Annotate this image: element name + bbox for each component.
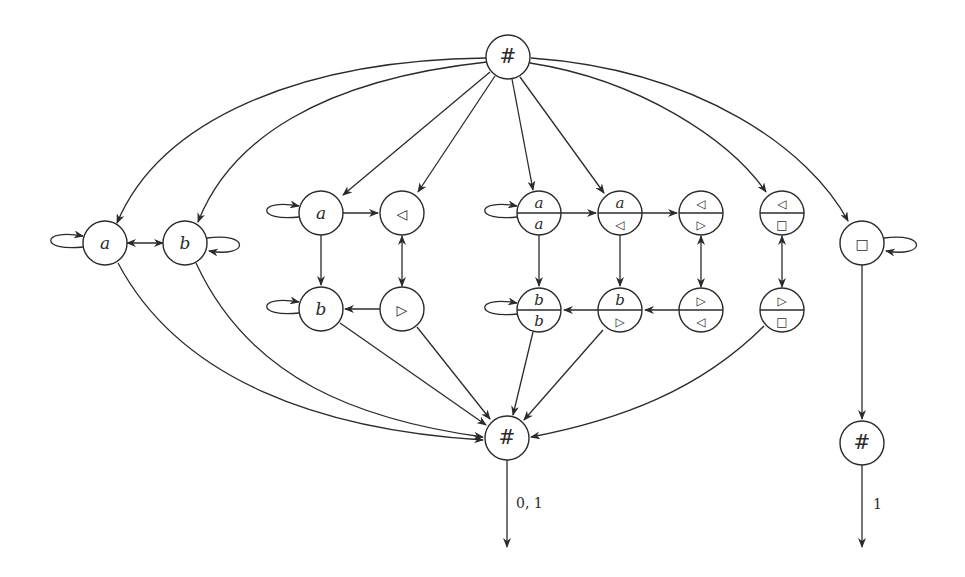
state-node-right_hash: #: [840, 421, 884, 465]
transition-arrow: [531, 326, 764, 437]
state-node-s_ltrt: ◁▷: [679, 191, 723, 235]
edge-labels-layer: 0, 11: [516, 495, 882, 512]
self-loop-arrow: [485, 301, 517, 314]
state-node-s_ltsq: ◁□: [760, 191, 804, 235]
state-label-bottom: a: [535, 215, 544, 233]
self-loop-arrow: [267, 300, 299, 313]
state-node-g_lt: ◁: [380, 191, 424, 235]
output-label: 0, 1: [516, 495, 543, 511]
state-label: #: [500, 44, 517, 68]
state-label-top: ▷: [777, 294, 787, 308]
output-label: 1: [873, 496, 882, 512]
state-node-s_bb: bb: [517, 288, 561, 332]
transition-arrow: [418, 76, 495, 192]
state-label: a: [316, 203, 326, 223]
transition-arrow: [512, 79, 533, 190]
self-loop-arrow: [51, 234, 83, 247]
state-node-g_a: a: [299, 191, 343, 235]
self-loop-arrow: [884, 237, 917, 252]
state-label-top: b: [615, 291, 625, 309]
state-label: ▷: [397, 302, 408, 318]
state-label-top: a: [535, 194, 544, 212]
state-node-s_brt: b▷: [598, 288, 642, 332]
transition-arrow: [118, 263, 483, 440]
state-label: b: [180, 233, 191, 253]
state-node-bottom_hash: #: [485, 416, 529, 460]
transition-arrow: [513, 332, 533, 415]
transition-arrow: [340, 323, 486, 425]
state-label-top: a: [616, 194, 625, 212]
state-label-bottom: ▷: [615, 315, 625, 329]
state-label-bottom: ◁: [695, 315, 705, 329]
state-label-top: ◁: [776, 197, 786, 211]
state-node-s_aa: aa: [517, 191, 561, 235]
state-label-top: ▷: [696, 294, 706, 308]
state-node-b_left: b: [163, 221, 207, 265]
self-loop-arrow: [267, 204, 299, 217]
state-node-a_left: a: [83, 221, 127, 265]
transition-arrow: [524, 330, 603, 420]
state-label: □: [855, 236, 868, 252]
state-label: a: [100, 233, 110, 253]
state-label-top: ◁: [695, 197, 705, 211]
state-node-top_hash: #: [486, 35, 530, 79]
self-loop-arrow: [485, 204, 517, 217]
transition-arrow: [417, 327, 490, 419]
state-label: b: [316, 299, 327, 319]
turing-machine-state-diagram: #aba◁b▷aaa◁◁▷◁□bbb▷▷◁▷□□## 0, 11: [0, 0, 965, 577]
state-node-g_b: b: [299, 287, 343, 331]
transition-arrow: [343, 72, 490, 195]
transition-arrow: [530, 63, 766, 192]
state-node-sq: □: [840, 221, 884, 265]
state-node-s_rtlt: ▷◁: [679, 288, 723, 332]
state-label-top: b: [534, 291, 544, 309]
transition-arrow: [117, 58, 486, 223]
state-label-bottom: □: [776, 315, 787, 329]
state-label: #: [499, 425, 516, 449]
nodes-layer: #aba◁b▷aaa◁◁▷◁□bbb▷▷◁▷□□##: [83, 35, 884, 465]
state-node-g_rt: ▷: [380, 287, 424, 331]
state-label: #: [854, 430, 871, 454]
transition-arrow: [198, 62, 487, 222]
state-label-bottom: ▷: [696, 218, 706, 232]
state-label-bottom: ◁: [614, 218, 624, 232]
state-label: ◁: [397, 206, 408, 222]
transition-arrow: [520, 77, 604, 193]
transition-arrow: [196, 263, 483, 437]
state-label-bottom: b: [534, 312, 544, 330]
state-node-s_alt: a◁: [598, 191, 642, 235]
state-label-bottom: □: [776, 218, 787, 232]
state-node-s_rtsq: ▷□: [760, 288, 804, 332]
self-loop-arrow: [207, 237, 240, 252]
